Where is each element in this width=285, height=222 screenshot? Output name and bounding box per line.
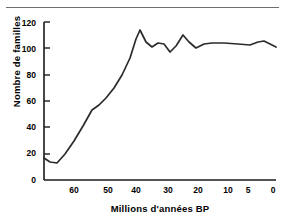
- chart-figure: 120 100 80 60 40 20 0 60 50 40 30 20 10 …: [0, 0, 285, 222]
- x-tick-label-30: 30: [156, 185, 180, 195]
- y-axis-ticks: [44, 22, 50, 154]
- x-tick-label-40: 40: [124, 185, 148, 195]
- y-axis-title: Nombre de familles: [11, 0, 22, 132]
- data-series-line: [44, 30, 276, 163]
- x-tick-label-0: 0: [261, 185, 285, 195]
- x-tick-label-50: 50: [96, 185, 120, 195]
- y-tick-label-0: 0: [10, 175, 36, 185]
- x-axis-title: Millions d'années BP: [44, 203, 276, 214]
- x-tick-label-20: 20: [186, 185, 210, 195]
- x-tick-label-60: 60: [62, 185, 86, 195]
- y-tick-label-20: 20: [10, 148, 36, 158]
- x-tick-label-5: 5: [236, 185, 260, 195]
